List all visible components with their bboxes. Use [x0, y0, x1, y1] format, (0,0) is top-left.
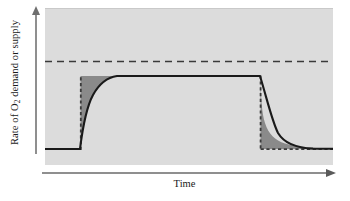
- y-axis-label-main: Rate of O: [10, 103, 21, 145]
- plot-svg: [45, 9, 333, 166]
- shaded-deficit-regions: [81, 76, 334, 149]
- y-axis-label-container: Rate of O2 demand or supply: [0, 0, 30, 165]
- y-axis-label: Rate of O2 demand or supply: [10, 20, 21, 145]
- x-axis-label: Time: [42, 178, 327, 189]
- y-axis-arrow-icon: [35, 14, 37, 154]
- plot-area: [45, 8, 333, 165]
- y-axis-label-tail: demand or supply: [10, 20, 21, 100]
- figure-oxygen-demand-supply: Rate of O2 demand or supply Time: [0, 0, 350, 201]
- y-axis-label-subscript: 2: [14, 99, 23, 103]
- x-axis-arrow-icon: [42, 172, 327, 174]
- demand-step-dashed: [81, 76, 333, 150]
